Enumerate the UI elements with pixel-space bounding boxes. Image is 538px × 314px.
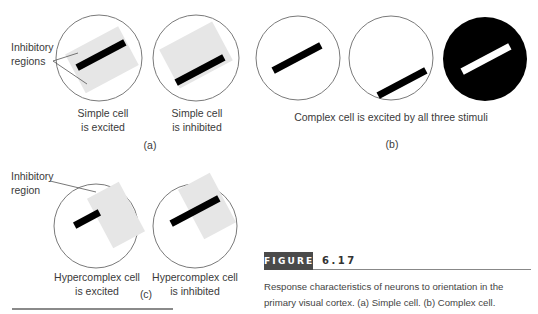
complex-cell-caption: Complex cell is excited by all three sti… xyxy=(294,111,488,123)
cell-caption: Hypercomplex cell xyxy=(54,271,140,283)
panel-c: Inhibitory region Hypercomplex cell is e… xyxy=(11,170,238,300)
hypercomplex-cell-excited-field xyxy=(54,182,145,268)
figure-caption: Response characteristics of neurons to o… xyxy=(264,279,538,311)
panel-tag: (c) xyxy=(140,288,152,300)
simple-cell-inhibited-field xyxy=(153,15,239,101)
complex-cell-field-1 xyxy=(256,16,340,100)
panel-tag: (a) xyxy=(144,139,157,151)
cell-caption: Hypercomplex cell xyxy=(152,271,238,283)
cell-caption: is inhibited xyxy=(170,285,220,297)
complex-cell-field-3 xyxy=(443,17,527,101)
cell-caption: Simple cell xyxy=(172,107,223,119)
annotation-inhibitory-region-line2: region xyxy=(11,184,40,196)
panel-a: Inhibitory regions Simple cell is excite… xyxy=(11,15,239,151)
cell-caption: is excited xyxy=(81,121,125,133)
annotation-inhibitory-regions-line1: Inhibitory xyxy=(11,41,54,53)
annotation-inhibitory-region-line1: Inhibitory xyxy=(11,170,54,182)
cell-caption: Simple cell xyxy=(78,107,129,119)
simple-cell-excited-field xyxy=(56,15,142,101)
panel-tag: (b) xyxy=(386,138,399,150)
figure-header-rule xyxy=(313,269,531,270)
figure-number: 6.17 xyxy=(322,252,357,270)
annotation-inhibitory-regions-line2: regions xyxy=(11,55,45,67)
figure-caption-line: Response characteristics of neurons to o… xyxy=(264,279,538,295)
panel-b: Complex cell is excited by all three sti… xyxy=(256,16,527,150)
figure-caption-line: primary visual cortex. (a) Simple cell. … xyxy=(264,295,538,311)
footer-rule xyxy=(12,308,173,310)
complex-cell-field-2 xyxy=(349,16,433,100)
hypercomplex-cell-inhibited-field xyxy=(153,173,237,268)
cell-caption: is excited xyxy=(75,285,119,297)
figure-label: FIGURE xyxy=(264,252,313,270)
cell-caption: is inhibited xyxy=(172,121,222,133)
